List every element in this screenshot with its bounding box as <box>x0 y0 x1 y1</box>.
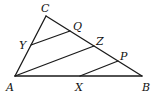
label-b: B <box>141 81 150 94</box>
label-p: P <box>119 50 128 63</box>
label-c: C <box>41 2 50 15</box>
label-q: Q <box>73 20 82 33</box>
label-z: Z <box>95 35 104 48</box>
label-a: A <box>5 81 14 94</box>
segment-az <box>15 46 94 76</box>
segment-xp <box>80 61 118 76</box>
vertex-labels: C Q Y Z P A X B <box>5 2 150 94</box>
label-y: Y <box>19 39 28 52</box>
label-x: X <box>74 81 84 94</box>
triangle-diagram: C Q Y Z P A X B <box>0 0 157 97</box>
